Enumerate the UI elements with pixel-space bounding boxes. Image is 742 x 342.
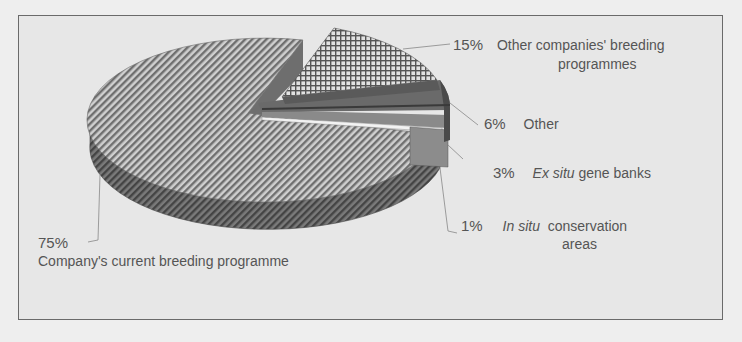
slice-3-side [410, 127, 448, 167]
label-1: 1% In situ conservation [461, 217, 627, 235]
label-1-line2: areas [562, 236, 597, 253]
label-75-text: Company's current breeding programme [38, 253, 289, 270]
label-75: 75% [38, 234, 68, 252]
label-6: 6% Other [484, 115, 559, 133]
label-1-italic: In situ [503, 218, 540, 234]
pct-75: 75% [38, 234, 68, 251]
label-3-rest: gene banks [575, 165, 651, 181]
label-15-line1: Other companies' breeding [497, 37, 665, 53]
pct-15: 15% [453, 36, 483, 53]
label-3-italic: Ex situ [533, 165, 575, 181]
pct-3: 3% [493, 164, 515, 181]
pct-6: 6% [484, 115, 506, 132]
label-6-text: Other [524, 116, 559, 132]
label-15-line2: programmes [558, 56, 637, 73]
label-3: 3% Ex situ gene banks [493, 164, 651, 182]
pct-1: 1% [461, 217, 483, 234]
label-15: 15% Other companies' breeding [453, 36, 665, 54]
label-1-rest: conservation [540, 218, 627, 234]
